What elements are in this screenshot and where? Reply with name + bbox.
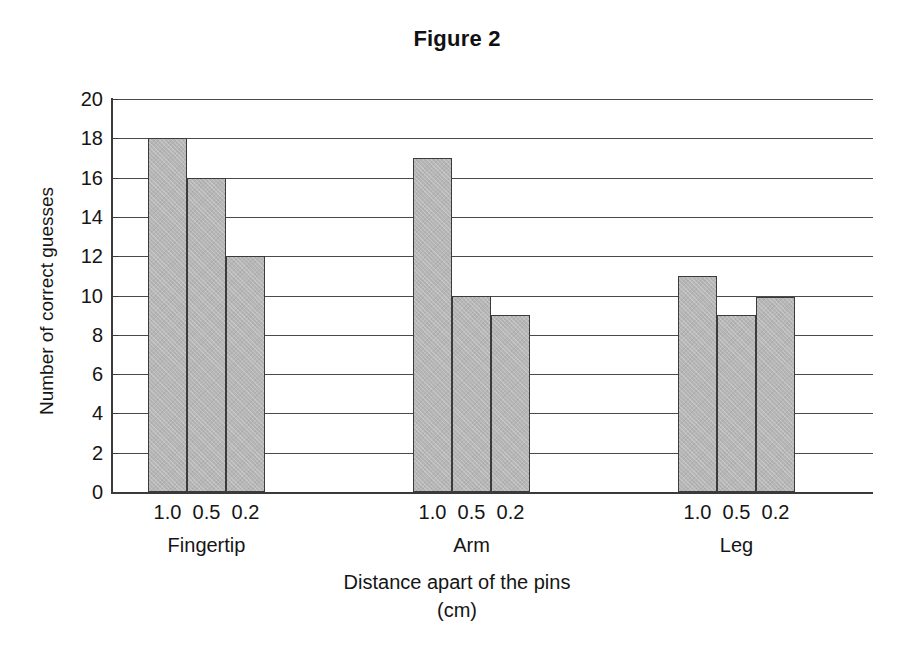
- x-axis-group-label: Leg: [657, 534, 817, 557]
- y-axis-tick-label: 20: [63, 88, 103, 111]
- y-axis-tick-mark: [111, 296, 118, 297]
- page-title: Figure 2: [0, 26, 914, 52]
- x-axis-title-line1: Distance apart of the pins: [344, 571, 571, 593]
- gridline: [111, 99, 873, 100]
- bar: [187, 178, 226, 492]
- y-axis-tick-labels: 20181614121086420: [53, 99, 103, 492]
- y-axis-tick-mark: [111, 99, 118, 100]
- bar: [452, 296, 491, 493]
- y-axis-tick-label: 2: [63, 441, 103, 464]
- y-axis-tick-label: 18: [63, 127, 103, 150]
- bar: [756, 297, 795, 492]
- bar: [413, 158, 452, 492]
- y-axis-tick-label: 6: [63, 363, 103, 386]
- x-axis-group-label: Arm: [392, 534, 552, 557]
- y-axis-tick-mark: [111, 256, 118, 257]
- x-axis-tick-label: 0.2: [752, 501, 800, 524]
- x-axis-tick-labels: 1.00.50.21.00.50.21.00.50.2: [111, 501, 873, 531]
- y-axis-tick-mark: [111, 217, 118, 218]
- y-axis-tick-mark: [111, 413, 118, 414]
- x-axis-group-labels: FingertipArmLeg: [111, 534, 873, 564]
- plot-area: [111, 99, 873, 492]
- y-axis-tick-mark: [111, 178, 118, 179]
- gridline: [111, 138, 873, 139]
- y-axis-tick-label: 10: [63, 284, 103, 307]
- y-axis-tick-mark: [111, 453, 118, 454]
- bar: [148, 138, 187, 492]
- y-axis-tick-mark: [111, 335, 118, 336]
- bar: [491, 315, 530, 492]
- bar: [226, 256, 265, 492]
- y-axis-tick-label: 14: [63, 205, 103, 228]
- y-axis-tick-mark: [111, 138, 118, 139]
- y-axis-tick-mark: [111, 374, 118, 375]
- x-axis-title: Distance apart of the pins (cm): [0, 568, 914, 624]
- x-axis-group-label: Fingertip: [127, 534, 287, 557]
- y-axis-tick-label: 4: [63, 402, 103, 425]
- bar: [717, 315, 756, 492]
- y-axis-tick-mark: [111, 492, 118, 493]
- x-axis-tick-label: 0.2: [222, 501, 270, 524]
- y-axis-tick-label: 16: [63, 166, 103, 189]
- x-axis-title-line2: (cm): [0, 596, 914, 624]
- bar: [678, 276, 717, 492]
- gridline: [111, 492, 873, 494]
- y-axis-tick-label: 0: [63, 481, 103, 504]
- y-axis-tick-label: 8: [63, 323, 103, 346]
- x-axis-tick-label: 0.2: [487, 501, 535, 524]
- y-axis-tick-label: 12: [63, 245, 103, 268]
